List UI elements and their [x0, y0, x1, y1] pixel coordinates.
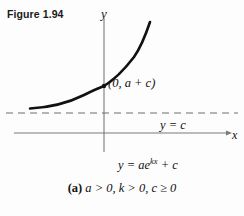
y-axis-label: y — [101, 6, 107, 22]
exponential-curve — [30, 22, 150, 109]
figure-container: Figure 1.94 y x (0, a + c) y = c y = aek… — [0, 0, 244, 216]
y-intercept-point-marker — [102, 84, 106, 88]
caption-conditions: a > 0, k > 0, c ≥ 0 — [85, 181, 176, 195]
equation-rhs: + c — [158, 158, 178, 172]
asymptote-equation-label: y = c — [160, 118, 186, 133]
equation-lhs: y = ae — [118, 158, 150, 172]
curve-equation-label: y = aekx + c — [118, 156, 178, 173]
caption-tag: (a) — [68, 181, 83, 195]
intercept-point-label: (0, a + c) — [108, 76, 155, 91]
x-axis-label: x — [232, 128, 237, 143]
figure-caption: (a)a > 0, k > 0, c ≥ 0 — [0, 181, 244, 196]
equation-exponent: kx — [150, 156, 158, 166]
